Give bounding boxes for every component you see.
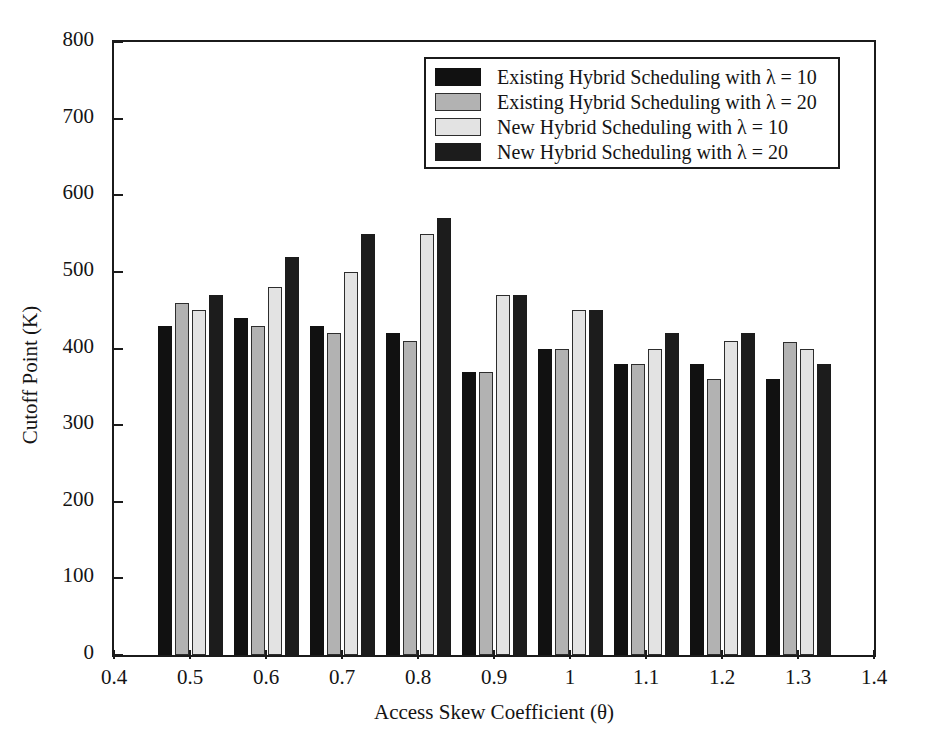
- x-axis-tick-label: 1.4: [834, 667, 914, 688]
- y-axis-tick-mark: [114, 501, 123, 503]
- y-axis-tick-mark: [114, 41, 123, 43]
- bar: [783, 342, 797, 655]
- legend-item[interactable]: New Hybrid Scheduling with λ = 10: [435, 114, 829, 139]
- bar: [572, 310, 586, 655]
- y-axis-tick-label: 600: [63, 182, 95, 203]
- legend-item-label: Existing Hybrid Scheduling with λ = 20: [497, 91, 817, 113]
- legend-swatch-icon: [435, 143, 481, 161]
- bar: [800, 349, 814, 656]
- bar: [209, 295, 223, 655]
- bar: [479, 372, 493, 656]
- x-axis-label: Access Skew Coefficient (θ): [112, 700, 876, 725]
- bar: [175, 303, 189, 655]
- bar: [648, 349, 662, 656]
- x-axis-tick-label: 0.5: [150, 667, 230, 688]
- x-axis-tick-label: 1.3: [758, 667, 838, 688]
- x-axis-tick-label: 0.6: [226, 667, 306, 688]
- legend-item[interactable]: Existing Hybrid Scheduling with λ = 20: [435, 89, 829, 114]
- bar: [496, 295, 510, 655]
- bar-chart-figure: 01002003004005006007008000.40.50.60.70.8…: [0, 0, 926, 749]
- bar: [614, 364, 628, 655]
- y-axis-label: Cutoff Point (K): [18, 225, 43, 525]
- bar: [192, 310, 206, 655]
- bar: [741, 333, 755, 655]
- y-axis-tick-label: 800: [63, 29, 95, 50]
- bar: [420, 234, 434, 655]
- x-axis-tick-mark: [113, 650, 115, 659]
- y-axis-tick-mark: [114, 424, 123, 426]
- bar: [437, 218, 451, 655]
- y-axis-tick-label: 500: [63, 259, 95, 280]
- bar: [555, 349, 569, 656]
- bar: [707, 379, 721, 655]
- y-axis-tick-mark: [114, 348, 123, 350]
- bar: [251, 326, 265, 655]
- bar: [631, 364, 645, 655]
- bar: [285, 257, 299, 655]
- bar: [403, 341, 417, 655]
- legend-item-label: New Hybrid Scheduling with λ = 10: [497, 116, 788, 138]
- x-axis-tick-label: 0.8: [378, 667, 458, 688]
- bar: [538, 349, 552, 656]
- legend-swatch-icon: [435, 93, 481, 111]
- y-axis-tick-mark: [114, 654, 123, 656]
- bar: [386, 333, 400, 655]
- bar: [690, 364, 704, 655]
- bar: [268, 287, 282, 655]
- y-axis-tick-label: 700: [63, 106, 95, 127]
- x-axis-tick-label: 0.4: [74, 667, 154, 688]
- x-axis-tick-label: 1.1: [606, 667, 686, 688]
- y-axis-tick-label: 300: [63, 412, 95, 433]
- bar: [361, 234, 375, 655]
- bar: [158, 326, 172, 655]
- bar: [589, 310, 603, 655]
- y-axis-tick-label: 100: [63, 565, 95, 586]
- y-axis-tick-label: 0: [84, 642, 95, 663]
- x-axis-tick-label: 1.2: [682, 667, 762, 688]
- legend-item[interactable]: New Hybrid Scheduling with λ = 20: [435, 139, 829, 164]
- bar: [462, 372, 476, 656]
- y-axis-tick-mark: [114, 118, 123, 120]
- bar: [234, 318, 248, 655]
- y-axis-tick-mark: [114, 271, 123, 273]
- y-axis-tick-mark: [114, 194, 123, 196]
- bar: [724, 341, 738, 655]
- bar: [310, 326, 324, 655]
- legend-item-label: Existing Hybrid Scheduling with λ = 10: [497, 66, 817, 88]
- y-axis-tick-label: 200: [63, 489, 95, 510]
- legend-item[interactable]: Existing Hybrid Scheduling with λ = 10: [435, 64, 829, 89]
- bar: [327, 333, 341, 655]
- x-axis-tick-label: 1: [530, 667, 610, 688]
- y-axis-tick-label: 400: [63, 336, 95, 357]
- x-axis-tick-label: 0.7: [302, 667, 382, 688]
- bar: [344, 272, 358, 655]
- bar: [817, 364, 831, 655]
- legend-item-label: New Hybrid Scheduling with λ = 20: [497, 141, 788, 163]
- bar: [766, 379, 780, 655]
- y-axis-tick-mark: [114, 577, 123, 579]
- chart-legend: Existing Hybrid Scheduling with λ = 10Ex…: [424, 57, 840, 169]
- bar: [665, 333, 679, 655]
- legend-swatch-icon: [435, 118, 481, 136]
- legend-swatch-icon: [435, 68, 481, 86]
- x-axis-tick-label: 0.9: [454, 667, 534, 688]
- x-axis-tick-mark: [873, 650, 875, 659]
- bar: [513, 295, 527, 655]
